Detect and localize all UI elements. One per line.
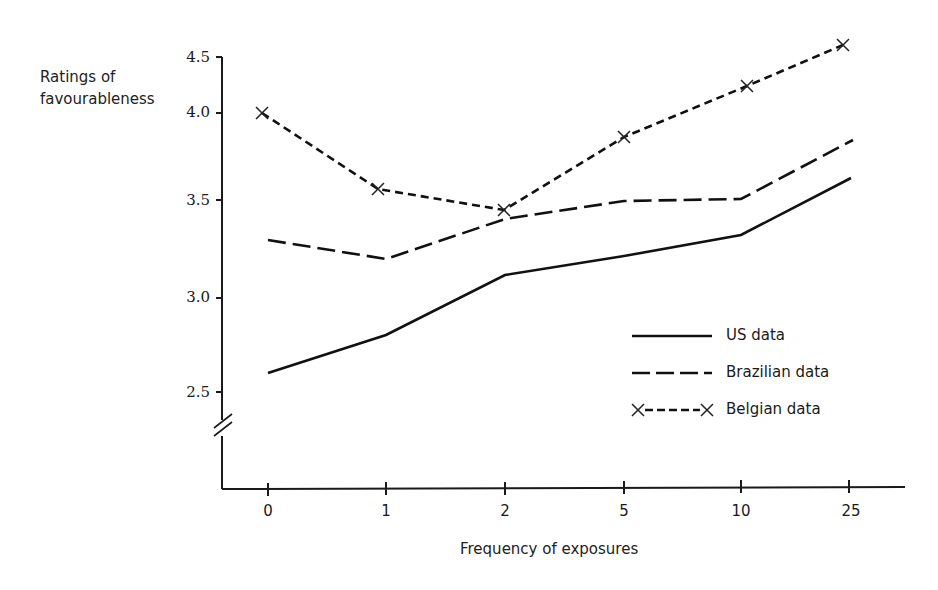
legend-belgian: Belgian data xyxy=(726,400,821,418)
legend-us: US data xyxy=(726,326,785,344)
x-axis xyxy=(222,487,905,489)
series-brazilian xyxy=(268,140,853,259)
legend-swatches xyxy=(632,336,712,410)
chart-plot xyxy=(0,0,938,590)
legend-brazilian: Brazilian data xyxy=(726,363,829,381)
series-belgian xyxy=(262,45,843,210)
